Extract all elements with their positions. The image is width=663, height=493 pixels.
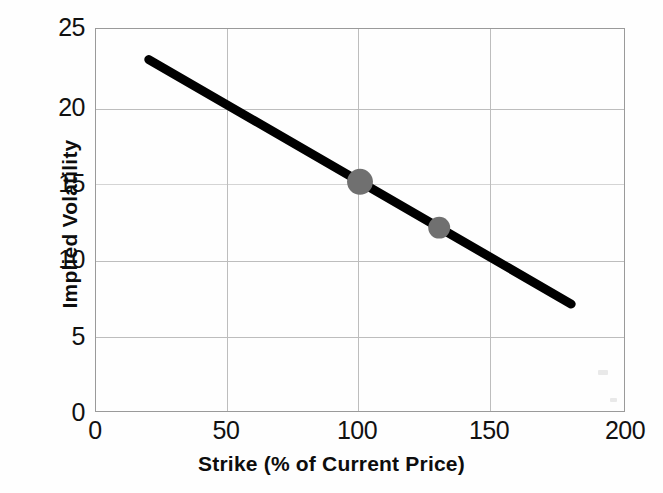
- y-axis-title: Implied Volatility: [58, 59, 82, 389]
- data-point-marker-0: [347, 169, 373, 195]
- xtick-label-100: 100: [317, 418, 397, 443]
- xtick-label-50: 50: [186, 418, 266, 443]
- xtick-label-0: 0: [55, 418, 135, 443]
- plot-area: [95, 28, 625, 412]
- data-layer: [96, 29, 624, 411]
- data-point-marker-1: [428, 217, 450, 239]
- xtick-label-150: 150: [449, 418, 529, 443]
- chart-figure: 25 20 15 10 5 0 0 50 100 150 200 Strike …: [0, 0, 663, 493]
- ytick-label-25: 25: [40, 15, 85, 40]
- xtick-label-200: 200: [585, 418, 663, 443]
- x-axis-title: Strike (% of Current Price): [0, 452, 663, 476]
